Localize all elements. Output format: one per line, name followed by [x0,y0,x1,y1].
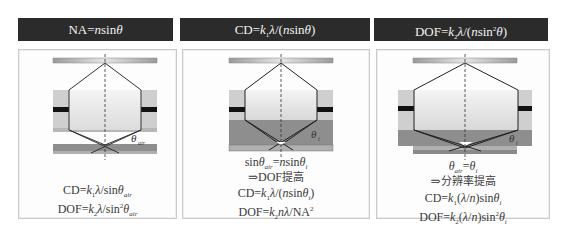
panel-immersion-resolution: θ i θair=θi ⇒分辨率提高 CD=k1(λ/n)sinθi DOF=k… [376,49,550,219]
header-cd-text: CD=k1λ/(nsinθ) [235,22,316,37]
header-na-text: NA=nsinθ [68,22,122,37]
panel-immersion-dof: θ i sinθair=nsinθi ⇒DOF提高 CD=k1λ/(nsinθi… [182,49,370,219]
resolution-dof-formula: DOF=k2(λ/n)sin2θi [377,206,549,230]
header-na: NA=nsinθ [18,18,173,41]
header-dof-text: DOF=k2λ/(nsin2θ) [415,24,507,39]
resolution-improved-note: ⇒分辨率提高 [377,173,549,190]
dof-improved-note: ⇒DOF提高 [183,169,369,186]
angle-theta-i: θ [311,128,317,140]
angle-theta-air: θ [131,132,137,144]
immersion-dof-formula: DOF=k2nλ/NA2 [183,201,369,225]
header-dof: DOF=k2λ/(nsin2θ) [374,18,548,41]
svg-text:air: air [138,140,146,146]
air-dof-formula: DOF=k2λ/sin2θair [19,198,176,222]
header-cd: CD=k1λ/(nsinθ) [180,18,370,41]
angle-theta-i: θ [509,132,515,144]
panel-air: θ air CD=k1λ/sinθair DOF=k2λ/sin2θair [18,49,177,219]
